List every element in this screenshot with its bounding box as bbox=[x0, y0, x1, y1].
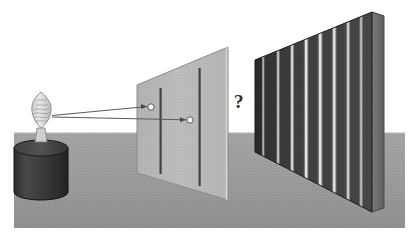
aperture-upper bbox=[148, 104, 154, 110]
wick-holder bbox=[35, 128, 47, 142]
slit-right bbox=[199, 68, 201, 186]
double-slit-barrier bbox=[137, 47, 228, 200]
screen-side-face bbox=[372, 12, 384, 212]
question-mark: ? bbox=[234, 92, 244, 111]
slit-left bbox=[160, 88, 162, 174]
double-slit-figure: ? bbox=[0, 0, 413, 245]
ray-to-upper-slit bbox=[52, 107, 147, 116]
figure-canvas bbox=[0, 0, 413, 245]
aperture-lower bbox=[187, 117, 193, 123]
light-source bbox=[14, 92, 68, 200]
flame bbox=[32, 92, 51, 128]
